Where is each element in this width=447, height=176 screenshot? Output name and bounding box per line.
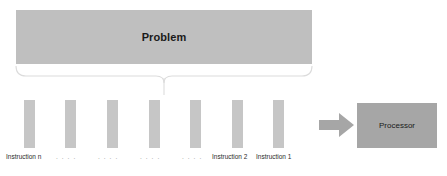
decomposition-brace-icon — [10, 62, 320, 98]
ellipsis-3: . . . . — [140, 153, 160, 160]
instruction-bar-2 — [232, 100, 243, 148]
ellipsis-4: . . . . — [182, 153, 202, 160]
instruction-1-label: Instruction 1 — [256, 153, 291, 160]
processor-block: Processor — [357, 103, 437, 148]
instruction-bar-n — [24, 100, 35, 148]
flow-arrow-right-icon — [319, 112, 355, 138]
instruction-bar-1 — [273, 100, 284, 148]
instruction-bar-3 — [190, 100, 201, 148]
problem-block-label: Problem — [142, 31, 187, 43]
instruction-n-label: Instruction n — [6, 153, 41, 160]
instruction-bar-4 — [149, 100, 160, 148]
problem-block: Problem — [16, 10, 312, 64]
instruction-2-label: Instruction 2 — [212, 153, 247, 160]
instruction-bar-5 — [107, 100, 118, 148]
problem-decomposition-diagram: Problem Instruction n Instruction 2 Inst… — [0, 0, 447, 176]
processor-block-label: Processor — [379, 121, 415, 130]
ellipsis-2: . . . . — [98, 153, 118, 160]
ellipsis-1: . . . . — [56, 153, 76, 160]
instruction-bar-6 — [65, 100, 76, 148]
